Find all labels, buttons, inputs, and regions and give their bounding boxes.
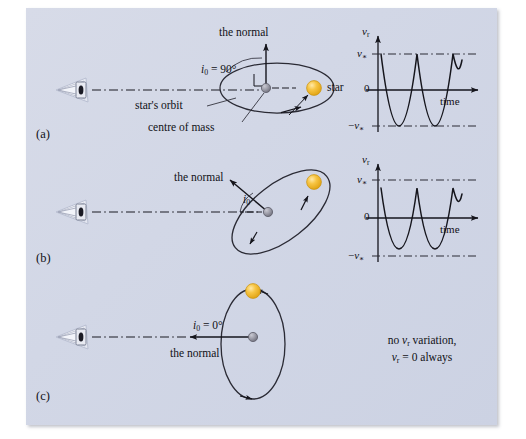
inclination-label-c: i0 = 0° [193, 320, 223, 332]
no-variation-note-line1: no vr variation, [362, 332, 482, 349]
figure-root: the normal i0 = 90° star's orbit centre … [0, 0, 526, 439]
graph-b-upper-tick-label: v∗ [357, 174, 367, 185]
centre-of-mass-label-a: centre of mass [148, 122, 214, 134]
no-variation-note: no vr variation, vr = 0 always [362, 332, 482, 365]
graph-b-lower-tick-label: −v∗ [348, 250, 364, 261]
panel-letter-c: (c) [36, 390, 50, 403]
graph-b-x-axis-label: time [440, 224, 460, 235]
panel-letter-a: (a) [36, 128, 50, 141]
graph-b-zero-label: 0 [364, 211, 370, 222]
panel-letter-b: (b) [36, 252, 51, 265]
no-variation-note-line2: vr = 0 always [362, 349, 482, 366]
inclination-label-b: i0 [243, 194, 250, 206]
star-orbit-label-a: star's orbit [135, 100, 183, 112]
normal-label-b: the normal [174, 172, 224, 184]
star-label-a: star [327, 82, 344, 94]
graph-a-x-axis-label: time [440, 96, 460, 107]
graph-b-y-axis-label: vr [362, 154, 369, 165]
graph-a-upper-tick-label: v∗ [357, 48, 367, 59]
normal-label-a: the normal [219, 27, 269, 39]
graph-a-y-axis-label: vr [362, 26, 369, 37]
graph-a-zero-label: 0 [364, 83, 370, 94]
normal-label-c: the normal [170, 348, 220, 360]
inclination-label-a: i0 = 90° [201, 64, 236, 76]
graph-a-lower-tick-label: −v∗ [348, 120, 364, 131]
